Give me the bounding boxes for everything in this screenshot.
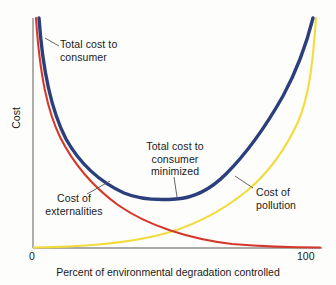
- annotation-total-cost-line2: consumer: [60, 51, 107, 63]
- x-tick-label-100: 100: [297, 250, 315, 262]
- annotation-minimized-line1: Total cost to: [146, 140, 203, 152]
- annotation-total-cost-line1: Total cost to: [60, 38, 117, 50]
- annotation-externalities-line2: externalities: [45, 205, 102, 217]
- annotation-externalities-line1: Cost of: [57, 192, 91, 204]
- leader-line-pollution: [235, 176, 253, 188]
- chart-figure: Total cost to consumer Total cost to con…: [0, 0, 336, 285]
- annotation-minimized-line2: consumer: [152, 153, 199, 165]
- annotation-pollution-line2: pollution: [256, 199, 296, 211]
- x-axis-label: Percent of environmental degradation con…: [0, 266, 336, 278]
- annotation-cost-of-pollution: Cost of pollution: [256, 186, 296, 211]
- x-tick-label-0: 0: [29, 250, 35, 262]
- annotation-total-cost-to-consumer: Total cost to consumer: [60, 38, 117, 63]
- leader-line-minimized: [174, 177, 177, 197]
- annotation-minimized-line3: minimized: [151, 165, 199, 177]
- annotation-cost-of-externalities: Cost of externalities: [32, 192, 116, 217]
- annotation-pollution-line1: Cost of: [256, 186, 290, 198]
- annotation-total-cost-minimized: Total cost to consumer minimized: [133, 140, 217, 178]
- y-axis-label: Cost: [10, 98, 22, 138]
- leader-line-total-cost: [45, 38, 59, 46]
